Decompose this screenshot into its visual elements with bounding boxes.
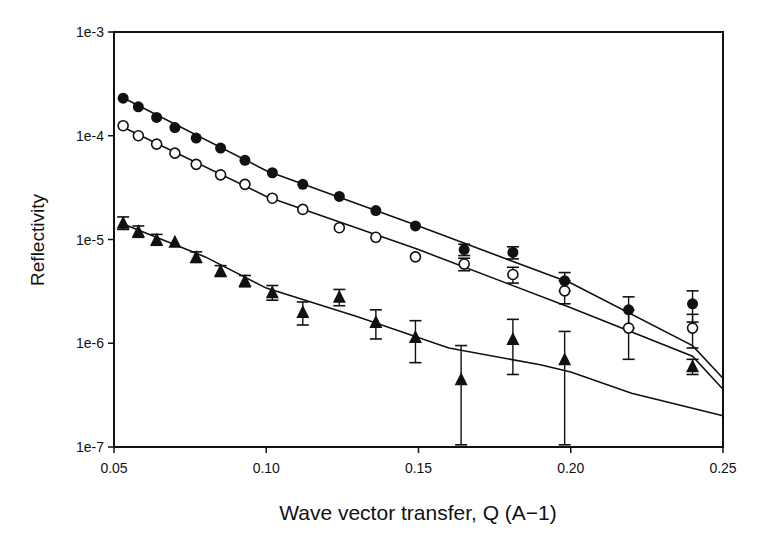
x-axis-ticks: 0.050.100.150.200.25 (100, 447, 736, 476)
fit-line (120, 126, 723, 390)
filled-circle-marker (334, 191, 345, 202)
filled-triangle-marker (558, 352, 571, 365)
x-tick-label: 0.15 (405, 460, 432, 476)
fit-line (120, 96, 723, 378)
filled-circle-marker (267, 167, 278, 178)
y-tick-label: 1e-3 (76, 24, 104, 40)
filled-circle-marker (687, 298, 698, 309)
open-circle-marker (371, 232, 381, 242)
plot-frame (114, 32, 723, 447)
filled-triangle-marker (296, 305, 309, 318)
filled-triangle-marker (168, 235, 181, 248)
open-circle-marker (688, 323, 698, 333)
x-tick-label: 0.20 (557, 460, 584, 476)
open-circle-marker (459, 259, 469, 269)
open-circle-marker (170, 148, 180, 158)
x-tick-label: 0.05 (100, 460, 127, 476)
open-circle-marker (267, 193, 277, 203)
plot-border (114, 32, 723, 447)
filled-triangle-marker (409, 330, 422, 343)
filled-circle-marker (507, 247, 518, 258)
open-circle-marker (240, 179, 250, 189)
x-axis-label: Wave vector transfer, Q (A−1) (279, 501, 557, 524)
filled-circle-marker (133, 101, 144, 112)
y-tick-label: 1e-7 (76, 439, 104, 455)
fit-line (120, 223, 723, 416)
filled-circle-marker (410, 220, 421, 231)
reflectivity-chart: 1e-31e-41e-51e-61e-7 0.050.100.150.200.2… (0, 0, 772, 552)
open-circle-marker (560, 286, 570, 296)
filled-circle-marker (215, 143, 226, 154)
filled-circle-marker (459, 244, 470, 255)
open-circle-marker (152, 139, 162, 149)
y-tick-label: 1e-5 (76, 232, 104, 248)
open-circle-marker (334, 223, 344, 233)
data-points (117, 93, 699, 445)
open-circle-marker (191, 159, 201, 169)
filled-circle-marker (151, 112, 162, 123)
filled-circle-marker (169, 122, 180, 133)
y-tick-label: 1e-6 (76, 335, 104, 351)
filled-triangle-marker (455, 372, 468, 385)
filled-circle-marker (297, 179, 308, 190)
fit-lines (120, 96, 723, 416)
open-circle-marker (508, 269, 518, 279)
filled-circle-marker (118, 93, 129, 104)
open-circle-marker (624, 323, 634, 333)
y-axis-label: Reflectivity (27, 194, 48, 286)
open-circle-marker (216, 170, 226, 180)
filled-circle-marker (239, 155, 250, 166)
open-circle-marker (133, 131, 143, 141)
filled-triangle-marker (506, 332, 519, 345)
filled-circle-marker (191, 133, 202, 144)
x-tick-label: 0.25 (709, 460, 736, 476)
open-circle-marker (118, 121, 128, 131)
y-tick-label: 1e-4 (76, 128, 104, 144)
open-circle-marker (298, 204, 308, 214)
open-circle-marker (410, 252, 420, 262)
filled-circle-marker (370, 205, 381, 216)
y-axis-ticks: 1e-31e-41e-51e-61e-7 (76, 24, 114, 455)
filled-triangle-marker (333, 290, 346, 303)
x-tick-label: 0.10 (253, 460, 280, 476)
